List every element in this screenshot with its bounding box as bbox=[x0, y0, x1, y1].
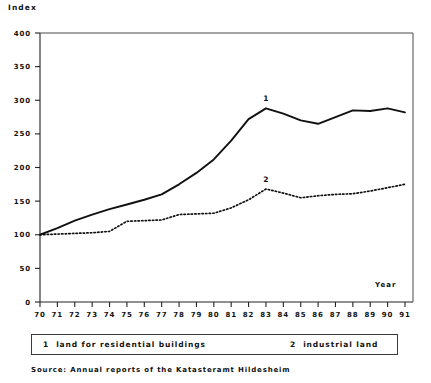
x-tick-label: 73 bbox=[86, 311, 98, 319]
x-tick-label: 81 bbox=[225, 311, 237, 319]
chart-container: Index Year 05010015020025030035040070717… bbox=[0, 0, 431, 383]
x-tick-label: 84 bbox=[278, 311, 290, 319]
x-tick-label: 72 bbox=[69, 311, 81, 319]
y-tick-label: 300 bbox=[14, 97, 31, 105]
x-tick-label: 91 bbox=[399, 311, 411, 319]
series-line-1 bbox=[40, 108, 405, 234]
legend: 1land for residential buildings 2industr… bbox=[31, 334, 398, 355]
x-tick-label: 85 bbox=[295, 311, 307, 319]
x-tick-label: 87 bbox=[330, 311, 342, 319]
plot-area: 0501001502002503003504007071727374757677… bbox=[0, 0, 431, 330]
x-tick-label: 80 bbox=[208, 311, 220, 319]
legend-item-2: 2industrial land bbox=[290, 340, 378, 349]
x-tick-label: 83 bbox=[260, 311, 272, 319]
x-tick-label: 86 bbox=[312, 311, 324, 319]
legend-key-2: 2 bbox=[290, 340, 296, 349]
y-tick-label: 200 bbox=[14, 164, 31, 172]
x-tick-label: 77 bbox=[156, 311, 168, 319]
x-tick-label: 74 bbox=[104, 311, 116, 319]
source-note: Source: Annual reports of the Katasteram… bbox=[31, 366, 291, 374]
x-tick-label: 78 bbox=[173, 311, 185, 319]
x-tick-label: 90 bbox=[382, 311, 394, 319]
series-marker-label-1: 1 bbox=[263, 94, 268, 103]
x-tick-label: 70 bbox=[34, 311, 46, 319]
x-tick-label: 88 bbox=[347, 311, 359, 319]
series-layer bbox=[40, 108, 405, 234]
y-tick-label: 400 bbox=[14, 30, 31, 38]
legend-label-2: industrial land bbox=[303, 340, 378, 349]
series-line-2 bbox=[40, 184, 405, 234]
legend-item-1: 1land for residential buildings bbox=[43, 340, 206, 349]
axis-layer: 0501001502002503003504007071727374757677… bbox=[14, 30, 413, 319]
y-tick-label: 0 bbox=[25, 299, 31, 307]
y-tick-label: 150 bbox=[14, 198, 31, 206]
x-tick-label: 89 bbox=[364, 311, 376, 319]
legend-label-1: land for residential buildings bbox=[56, 340, 206, 349]
x-tick-label: 82 bbox=[243, 311, 255, 319]
y-tick-label: 50 bbox=[19, 265, 31, 273]
x-tick-label: 71 bbox=[52, 311, 64, 319]
legend-key-1: 1 bbox=[43, 340, 49, 349]
y-tick-label: 250 bbox=[14, 130, 31, 138]
x-tick-label: 75 bbox=[121, 311, 133, 319]
x-tick-label: 76 bbox=[139, 311, 151, 319]
y-tick-label: 350 bbox=[14, 63, 31, 71]
series-marker-label-2: 2 bbox=[263, 175, 268, 184]
y-tick-label: 100 bbox=[14, 231, 31, 239]
x-tick-label: 79 bbox=[191, 311, 203, 319]
